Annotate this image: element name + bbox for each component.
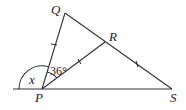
label-R: R bbox=[108, 29, 117, 44]
label-S: S bbox=[170, 90, 177, 105]
segment-QS bbox=[65, 13, 172, 89]
label-P: P bbox=[34, 90, 43, 105]
angle-label-36: 36° bbox=[50, 64, 67, 78]
label-Q: Q bbox=[51, 2, 61, 17]
angle-label-x: x bbox=[28, 72, 35, 87]
triangle-diagram: Q R P S x 36° bbox=[0, 0, 186, 110]
